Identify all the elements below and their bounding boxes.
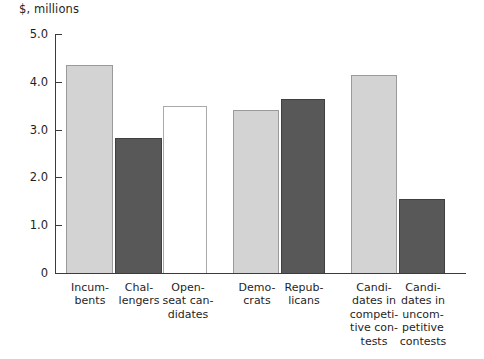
y-axis-tick (55, 82, 62, 83)
category-label: Repub- licans (275, 281, 333, 308)
bar-chart: $, millions 5.04.03.02.01.00 Incum- bent… (0, 0, 484, 359)
y-axis-tick (55, 130, 62, 131)
bar (351, 75, 397, 273)
y-axis-tick (55, 34, 62, 35)
y-axis-unit-label: $, millions (19, 2, 79, 16)
bar (66, 65, 113, 273)
y-axis-tick-label: 4.0 (6, 75, 48, 89)
bar (115, 138, 162, 273)
y-axis-tick-label: 0 (6, 266, 48, 280)
bar (163, 106, 207, 273)
y-axis-tick-label: 1.0 (6, 218, 48, 232)
bar (233, 110, 279, 273)
y-axis-tick (55, 177, 62, 178)
y-axis-line (55, 34, 56, 274)
y-axis-tick-label: 3.0 (6, 123, 48, 137)
category-label: Open- seat can- didates (158, 281, 218, 321)
x-axis-line (55, 273, 466, 274)
category-label: Candi- dates in uncom- petitive contests (394, 281, 452, 348)
bar (281, 99, 325, 273)
bar (399, 199, 445, 273)
y-axis-tick (55, 273, 62, 274)
y-axis-tick (55, 225, 62, 226)
y-axis-tick-label: 2.0 (6, 170, 48, 184)
y-axis-tick-label: 5.0 (6, 27, 48, 41)
